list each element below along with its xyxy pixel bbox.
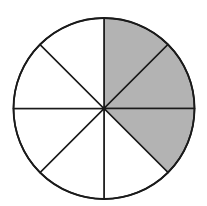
fraction-circle-diagram: [0, 0, 207, 206]
center-point: [102, 107, 106, 111]
